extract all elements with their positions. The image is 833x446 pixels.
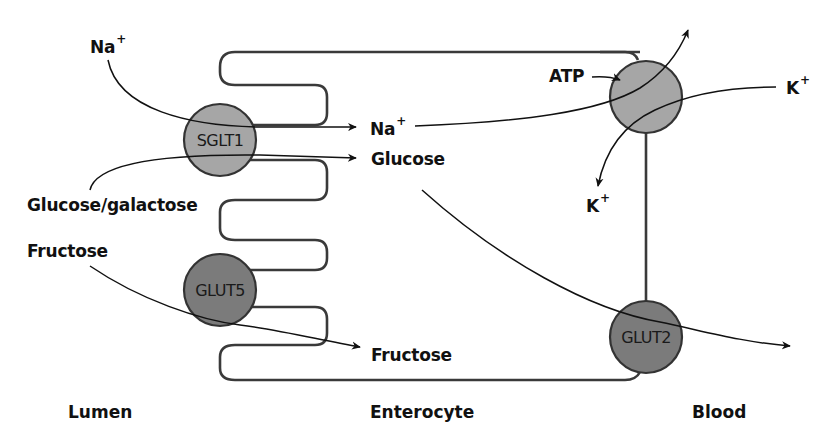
glut2-label: GLUT2 — [608, 330, 684, 346]
na-cell-label: Na+ — [370, 118, 406, 138]
enterocyte-transport-diagram: SGLT1 GLUT5 GLUT2 Na+ Na+ Glucose Glucos… — [0, 0, 833, 446]
enterocyte-region-label: Enterocyte — [370, 404, 474, 421]
fructose-lumen-label: Fructose — [27, 243, 108, 260]
k-cell-label: K+ — [586, 195, 610, 215]
lumen-region-label: Lumen — [68, 404, 132, 421]
sglt1-label: SGLT1 — [182, 133, 258, 149]
glucose-galactose-lumen-label: Glucose/galactose — [27, 197, 198, 214]
glucose-cell-label: Glucose — [371, 151, 445, 168]
atp-label: ATP — [549, 68, 584, 85]
glut5-label: GLUT5 — [182, 283, 258, 299]
k-blood-label: K+ — [786, 77, 810, 97]
cell-membrane-top-right — [600, 52, 638, 60]
blood-region-label: Blood — [692, 404, 746, 421]
na-lumen-label: Na+ — [90, 36, 126, 56]
cell-membrane — [220, 52, 640, 380]
fructose-cell-label: Fructose — [371, 347, 452, 364]
diagram-canvas — [0, 0, 833, 446]
